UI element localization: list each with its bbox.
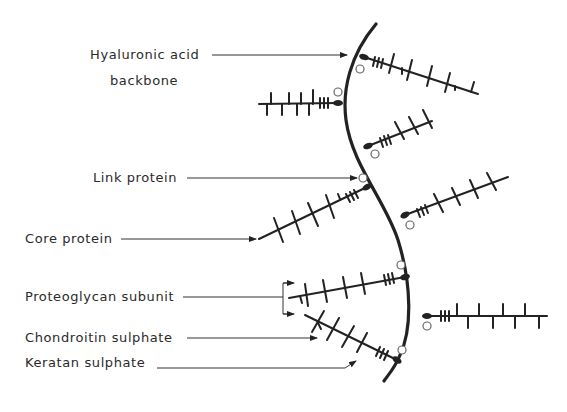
label-chondroitin-sulphate: Chondroitin sulphate (25, 331, 173, 344)
label-core-protein: Core protein (25, 232, 113, 245)
proteoglycan-subunit-7 (422, 304, 547, 328)
link-protein-2 (334, 88, 342, 96)
link-protein-1 (356, 65, 364, 73)
label-keratan-sulphate: Keratan sulphate (25, 356, 145, 369)
proteoglycan-subunit-4 (259, 182, 373, 242)
label-link-protein: Link protein (93, 171, 177, 184)
leader-lines (121, 55, 357, 368)
link-protein-5 (406, 221, 414, 229)
link-protein-3 (371, 150, 379, 158)
proteoglycan-subunit-5 (399, 173, 508, 220)
proteoglycan-subunit-2 (259, 90, 343, 115)
link-protein-4 (359, 174, 367, 182)
label-backbone: backbone (110, 74, 178, 87)
label-proteoglycan-subunit: Proteoglycan subunit (25, 290, 174, 303)
hyaluronic-acid-backbone (345, 24, 409, 381)
proteoglycan-subunit-3 (362, 110, 432, 151)
proteoglycan-subunit-1 (358, 53, 478, 94)
link-protein-8 (398, 346, 406, 354)
proteoglycan-diagram: Hyaluronic acid backbone Link protein Co… (0, 0, 567, 412)
link-protein-6 (397, 261, 405, 269)
proteoglycan-subunit-8 (305, 311, 403, 365)
proteoglycan-subunit-6 (289, 273, 411, 306)
diagram-graphics (0, 0, 567, 412)
label-hyaluronic-acid: Hyaluronic acid (90, 48, 199, 61)
link-protein-7 (423, 322, 431, 330)
